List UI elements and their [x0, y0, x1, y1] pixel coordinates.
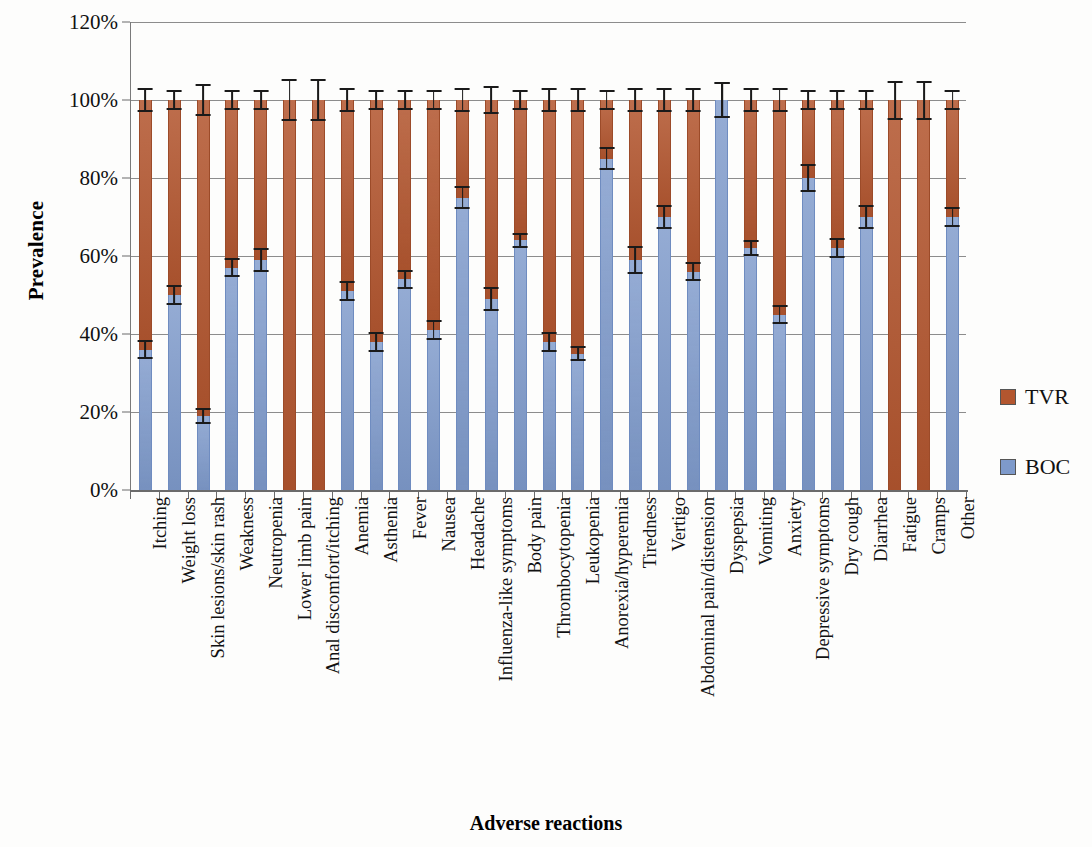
stacked-bar[interactable]: [773, 22, 786, 490]
stacked-bar[interactable]: [456, 22, 469, 490]
stacked-bar[interactable]: [600, 22, 613, 490]
bar-segment-boc[interactable]: [658, 217, 671, 490]
x-tick-label: Vomiting: [757, 497, 776, 566]
legend-item-tvr[interactable]: TVR: [1000, 386, 1070, 408]
bar-segment-boc[interactable]: [715, 100, 728, 490]
stacked-bar[interactable]: [370, 22, 383, 490]
bar-segment-tvr[interactable]: [860, 100, 873, 217]
bar-segment-tvr[interactable]: [658, 100, 671, 217]
bar-segment-tvr[interactable]: [888, 100, 901, 490]
bar-segment-boc[interactable]: [485, 299, 498, 490]
stacked-bar[interactable]: [398, 22, 411, 490]
error-bar-boc: [635, 246, 637, 273]
stacked-bar[interactable]: [744, 22, 757, 490]
bar-segment-boc[interactable]: [946, 217, 959, 490]
error-bar-boc: [836, 238, 838, 258]
bar-segment-boc[interactable]: [543, 342, 556, 490]
bar-segment-boc[interactable]: [831, 248, 844, 490]
bar-segment-tvr[interactable]: [571, 100, 584, 354]
legend-item-boc[interactable]: BOC: [1000, 456, 1070, 478]
stacked-bar[interactable]: [254, 22, 267, 490]
chart-legend: TVRBOC: [1000, 386, 1070, 526]
bar-segment-boc[interactable]: [687, 272, 700, 490]
bar-segment-boc[interactable]: [456, 198, 469, 491]
stacked-bar[interactable]: [715, 22, 728, 490]
bar-segment-boc[interactable]: [571, 354, 584, 491]
stacked-bar[interactable]: [629, 22, 642, 490]
stacked-bar[interactable]: [514, 22, 527, 490]
bar-segment-tvr[interactable]: [744, 100, 757, 248]
y-tick-label: 0%: [22, 480, 118, 501]
bar-segment-tvr[interactable]: [831, 100, 844, 248]
bar-segment-boc[interactable]: [773, 315, 786, 491]
bar-segment-boc[interactable]: [197, 416, 210, 490]
x-tick-label: Fever: [411, 497, 430, 539]
bar-segment-boc[interactable]: [514, 240, 527, 490]
stacked-bar[interactable]: [571, 22, 584, 490]
error-bar-boc: [202, 408, 204, 424]
stacked-bar[interactable]: [427, 22, 440, 490]
bar-segment-boc[interactable]: [225, 268, 238, 490]
stacked-bar[interactable]: [485, 22, 498, 490]
x-tick-label: Neutropenia: [267, 497, 286, 588]
stacked-bar[interactable]: [283, 22, 296, 490]
bar-segment-tvr[interactable]: [456, 100, 469, 198]
stacked-bar[interactable]: [687, 22, 700, 490]
stacked-bar[interactable]: [917, 22, 930, 490]
bar-segment-boc[interactable]: [600, 159, 613, 491]
bar-segment-tvr[interactable]: [514, 100, 527, 240]
y-tick-label: 40%: [22, 324, 118, 345]
stacked-bar[interactable]: [543, 22, 556, 490]
x-tick-label: Skin lesions/skin rash: [209, 497, 228, 658]
x-tick-label: Thrombocytopenia: [555, 497, 574, 638]
bar-segment-tvr[interactable]: [370, 100, 383, 342]
error-bar-boc: [952, 207, 954, 227]
y-tick-mark: [122, 22, 130, 23]
error-bar-boc: [404, 270, 406, 290]
bar-segment-tvr[interactable]: [254, 100, 267, 260]
stacked-bar[interactable]: [139, 22, 152, 490]
error-bar-boc: [231, 258, 233, 278]
bar-segment-tvr[interactable]: [773, 100, 786, 315]
bar-segment-tvr[interactable]: [341, 100, 354, 291]
bar-segment-tvr[interactable]: [225, 100, 238, 268]
bar-segment-boc[interactable]: [744, 248, 757, 490]
stacked-bar[interactable]: [888, 22, 901, 490]
bar-segment-tvr[interactable]: [946, 100, 959, 217]
bar-segment-tvr[interactable]: [917, 100, 930, 490]
bar-segment-tvr[interactable]: [687, 100, 700, 272]
bar-segment-boc[interactable]: [341, 291, 354, 490]
bar-segment-boc[interactable]: [254, 260, 267, 490]
bar-segment-boc[interactable]: [860, 217, 873, 490]
stacked-bar[interactable]: [946, 22, 959, 490]
bar-segment-tvr[interactable]: [312, 100, 325, 490]
stacked-bar[interactable]: [197, 22, 210, 490]
bar-segment-tvr[interactable]: [543, 100, 556, 342]
bar-segment-boc[interactable]: [398, 279, 411, 490]
bar-segment-boc[interactable]: [139, 350, 152, 490]
bar-segment-tvr[interactable]: [168, 100, 181, 295]
stacked-bar[interactable]: [860, 22, 873, 490]
stacked-bar[interactable]: [312, 22, 325, 490]
bar-segment-tvr[interactable]: [197, 100, 210, 416]
bar-segment-tvr[interactable]: [629, 100, 642, 260]
bar-segment-boc[interactable]: [370, 342, 383, 490]
bar-segment-tvr[interactable]: [139, 100, 152, 350]
bar-segment-boc[interactable]: [168, 295, 181, 490]
bar-segment-tvr[interactable]: [283, 100, 296, 490]
bar-segment-tvr[interactable]: [398, 100, 411, 279]
error-bar-total: [808, 90, 810, 110]
y-tick-mark: [122, 100, 130, 101]
bar-segment-tvr[interactable]: [427, 100, 440, 330]
stacked-bar[interactable]: [168, 22, 181, 490]
stacked-bar[interactable]: [225, 22, 238, 490]
stacked-bar[interactable]: [831, 22, 844, 490]
bar-segment-tvr[interactable]: [485, 100, 498, 299]
stacked-bar[interactable]: [341, 22, 354, 490]
bar-segment-boc[interactable]: [802, 178, 815, 490]
bar-segment-boc[interactable]: [427, 330, 440, 490]
stacked-bar[interactable]: [802, 22, 815, 490]
stacked-bar[interactable]: [658, 22, 671, 490]
bar-segment-boc[interactable]: [629, 260, 642, 490]
error-bar-total: [865, 90, 867, 110]
